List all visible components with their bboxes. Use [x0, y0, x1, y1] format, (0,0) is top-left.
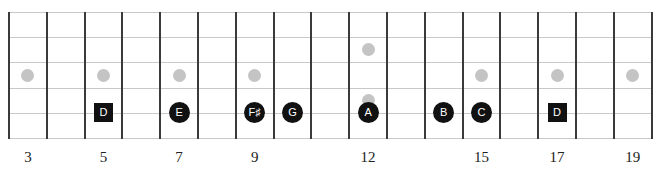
fret-line — [121, 12, 123, 139]
fret-line — [273, 12, 275, 139]
root-note-marker: D — [548, 103, 567, 122]
root-note-marker: D — [94, 103, 113, 122]
inlay-dot-icon — [173, 69, 186, 82]
fret-number-label: 3 — [13, 149, 43, 166]
fret-number-label: 12 — [353, 149, 383, 166]
fret-line — [235, 12, 237, 139]
fret-line — [613, 12, 615, 139]
inlay-dot-icon — [475, 69, 488, 82]
string-line — [9, 138, 652, 139]
string-line — [9, 62, 652, 63]
note-marker: G — [282, 102, 303, 123]
string-line — [9, 12, 652, 13]
fret-line — [310, 12, 312, 139]
inlay-dot-icon — [97, 69, 110, 82]
fret-number-label: 15 — [467, 149, 497, 166]
note-marker: A — [358, 102, 379, 123]
inlay-dot-icon — [248, 69, 261, 82]
fret-number-label: 5 — [89, 149, 119, 166]
fret-line — [159, 12, 161, 139]
fret-line — [197, 12, 199, 139]
fret-line — [537, 12, 539, 139]
fret-number-label: 19 — [618, 149, 648, 166]
fret-line — [462, 12, 464, 139]
fret-line — [8, 12, 10, 139]
note-marker: B — [433, 102, 454, 123]
string-line — [9, 37, 652, 38]
fret-line — [84, 12, 86, 139]
fretboard-diagram: DEF♯GABCD 357912151719 — [0, 0, 660, 181]
inlay-dot-icon — [626, 69, 639, 82]
note-marker: F♯ — [244, 102, 265, 123]
fret-number-label: 9 — [240, 149, 270, 166]
fret-line — [424, 12, 426, 139]
fret-line — [348, 12, 350, 139]
note-marker: E — [169, 102, 190, 123]
string-line — [9, 88, 652, 89]
fret-line — [651, 12, 653, 139]
fret-number-label: 7 — [164, 149, 194, 166]
inlay-dot-icon — [21, 69, 34, 82]
fret-line — [499, 12, 501, 139]
fret-number-label: 17 — [542, 149, 572, 166]
fret-line — [386, 12, 388, 139]
note-marker: C — [471, 102, 492, 123]
inlay-dot-icon — [551, 69, 564, 82]
fret-line — [46, 12, 48, 139]
fret-line — [575, 12, 577, 139]
inlay-dot-icon — [362, 43, 375, 56]
